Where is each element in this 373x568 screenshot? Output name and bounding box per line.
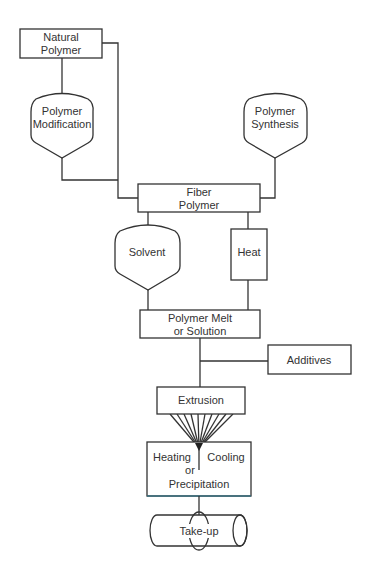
svg-text:Polymer Melt: Polymer Melt	[168, 312, 232, 324]
svg-text:Polymer: Polymer	[255, 105, 296, 117]
svg-text:Modification: Modification	[33, 118, 92, 130]
svg-text:Natural: Natural	[43, 31, 78, 43]
svg-text:Solvent: Solvent	[129, 246, 166, 258]
svg-text:Extrusion: Extrusion	[178, 394, 224, 406]
svg-text:Take-up: Take-up	[179, 525, 218, 537]
svg-text:or: or	[185, 464, 195, 476]
svg-text:Polymer: Polymer	[42, 105, 83, 117]
edge-synthesis-to-fiber	[260, 158, 275, 198]
svg-text:Cooling: Cooling	[207, 451, 244, 463]
svg-text:Fiber: Fiber	[186, 186, 211, 198]
svg-text:Polymer: Polymer	[179, 199, 220, 211]
node-fiber-polymer: Fiber Polymer	[138, 184, 260, 212]
node-polymer-modification: Polymer Modification	[31, 94, 93, 159]
node-take-up: Take-up	[150, 512, 247, 550]
node-solvent: Solvent	[115, 225, 180, 290]
node-additives: Additives	[268, 345, 351, 374]
node-natural-polymer: Natural Polymer	[20, 29, 102, 58]
svg-text:Heat: Heat	[237, 246, 260, 258]
svg-text:Precipitation: Precipitation	[169, 478, 230, 490]
svg-text:Synthesis: Synthesis	[251, 118, 299, 130]
node-polymer-melt: Polymer Melt or Solution	[140, 310, 260, 338]
node-extrusion: Extrusion	[157, 387, 245, 414]
node-heat: Heat	[231, 229, 267, 280]
svg-text:or Solution: or Solution	[174, 325, 227, 337]
svg-text:Heating: Heating	[153, 451, 191, 463]
flowchart-canvas: Natural Polymer Polymer Modification Pol…	[0, 0, 373, 568]
svg-text:Additives: Additives	[287, 354, 332, 366]
svg-text:Polymer: Polymer	[41, 44, 82, 56]
node-heating-cooling: Heating Cooling or Precipitation	[147, 442, 251, 496]
edge-modification-to-fiber	[62, 158, 118, 180]
edge-natural-to-fiber	[102, 43, 138, 198]
node-polymer-synthesis: Polymer Synthesis	[244, 94, 307, 159]
